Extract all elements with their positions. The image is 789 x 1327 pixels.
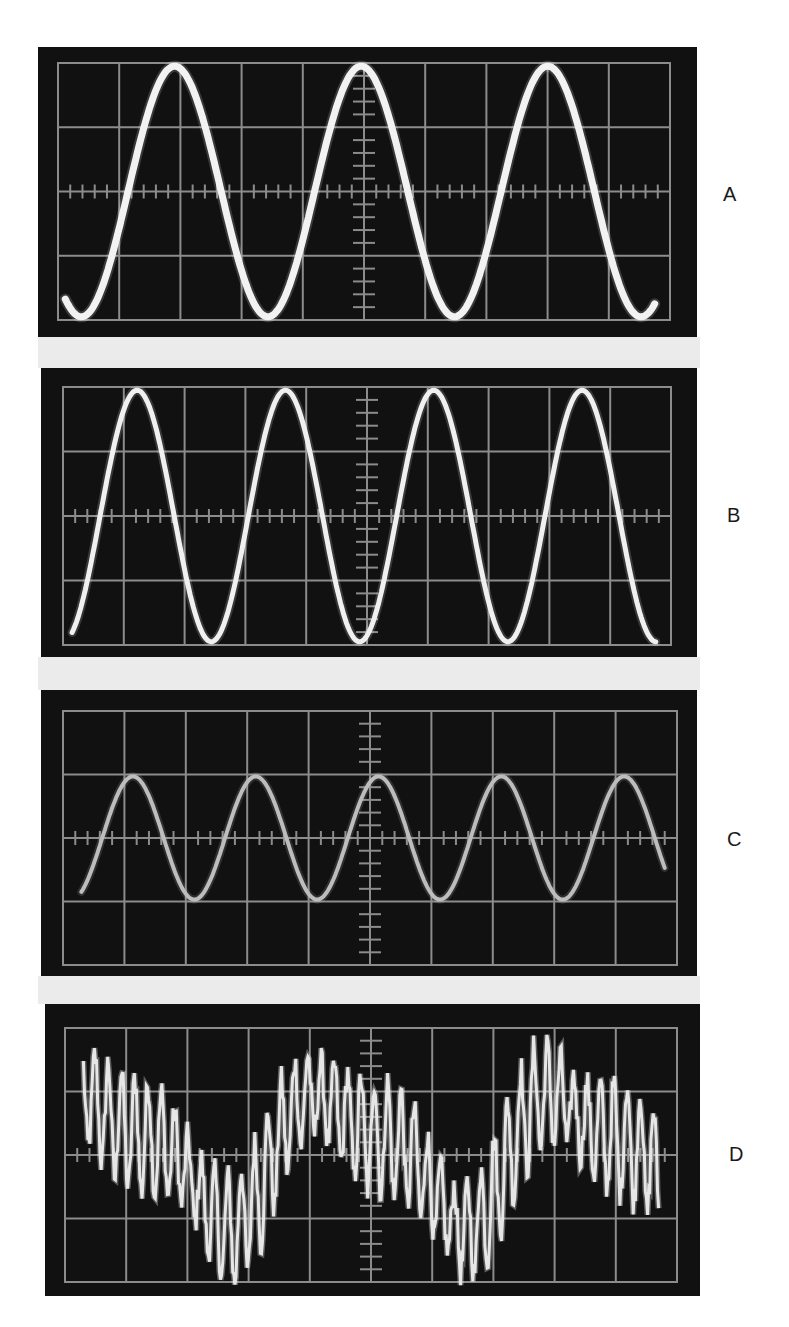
separator-strip (38, 657, 700, 690)
panel-label-d: D (729, 1144, 743, 1164)
oscilloscope-panel-a (38, 47, 697, 337)
oscilloscope-panel-d (45, 1004, 700, 1296)
oscilloscope-panel-c (41, 690, 697, 976)
trace-a (38, 47, 697, 337)
oscilloscope-panel-b (41, 368, 697, 657)
trace-d (45, 1004, 700, 1296)
panel-label-c: C (727, 829, 741, 849)
separator-strip (38, 976, 700, 1004)
panel-label-a: A (723, 184, 736, 204)
separator-strip (38, 337, 700, 368)
trace-c (41, 690, 697, 976)
trace-b (41, 368, 697, 657)
graticule (63, 711, 677, 965)
panel-label-b: B (727, 505, 740, 525)
